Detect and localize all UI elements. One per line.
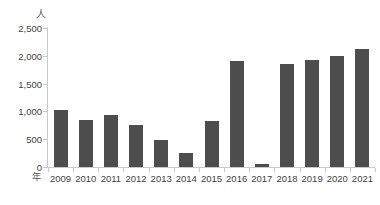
x-axis-tick-label: 2013 bbox=[151, 173, 172, 184]
bar bbox=[330, 56, 344, 167]
bar bbox=[205, 121, 219, 167]
y-axis-tick-label: 1,500 bbox=[4, 78, 42, 89]
y-axis-tick-label: 2,500 bbox=[4, 23, 42, 34]
x-axis-tick bbox=[48, 168, 49, 172]
x-axis-tick bbox=[123, 168, 124, 172]
x-axis-tick bbox=[249, 168, 250, 172]
bar bbox=[54, 110, 68, 167]
x-axis-tick bbox=[325, 168, 326, 172]
x-axis-tick bbox=[149, 168, 150, 172]
x-axis-tick bbox=[174, 168, 175, 172]
bar bbox=[355, 49, 369, 167]
x-axis-line bbox=[47, 167, 375, 168]
bar-chart: 人 年 05001,0001,5002,0002,500 20092010201… bbox=[0, 0, 380, 205]
x-axis-tick bbox=[350, 168, 351, 172]
x-axis-tick bbox=[375, 168, 376, 172]
bar bbox=[280, 64, 294, 167]
x-axis-tick-label: 2009 bbox=[50, 173, 71, 184]
x-axis-tick-label: 2012 bbox=[125, 173, 146, 184]
x-axis-tick bbox=[300, 168, 301, 172]
bars-layer bbox=[48, 28, 375, 167]
x-axis-tick bbox=[73, 168, 74, 172]
y-axis-tick-label: 1,000 bbox=[4, 106, 42, 117]
bar bbox=[154, 140, 168, 167]
x-axis-tick bbox=[274, 168, 275, 172]
x-axis-tick bbox=[224, 168, 225, 172]
y-axis-tick-labels: 05001,0001,5002,0002,500 bbox=[0, 0, 42, 205]
bar bbox=[129, 125, 143, 167]
bar bbox=[179, 153, 193, 167]
x-axis-tick-label: 2010 bbox=[75, 173, 96, 184]
x-axis-tick-label: 2015 bbox=[201, 173, 222, 184]
x-axis-tick-label: 2019 bbox=[302, 173, 323, 184]
bar bbox=[104, 115, 118, 167]
x-axis-tick-label: 2014 bbox=[176, 173, 197, 184]
y-axis-tick-label: 2,000 bbox=[4, 50, 42, 61]
bar bbox=[79, 120, 93, 167]
x-axis-tick-label: 2016 bbox=[226, 173, 247, 184]
x-axis-tick-label: 2017 bbox=[251, 173, 272, 184]
bar bbox=[230, 61, 244, 167]
y-axis-tick-label: 500 bbox=[4, 134, 42, 145]
x-axis-tick bbox=[98, 168, 99, 172]
x-axis-tick-label: 2020 bbox=[327, 173, 348, 184]
x-axis-tick bbox=[199, 168, 200, 172]
bar bbox=[255, 164, 269, 167]
bar bbox=[305, 60, 319, 167]
y-axis-tick-label: 0 bbox=[4, 162, 42, 173]
x-axis-tick-label: 2018 bbox=[276, 173, 297, 184]
x-axis-tick-label: 2021 bbox=[352, 173, 373, 184]
x-axis-tick-label: 2011 bbox=[101, 173, 121, 184]
